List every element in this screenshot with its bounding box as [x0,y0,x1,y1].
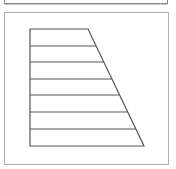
trapezoid-diagram [0,0,176,169]
